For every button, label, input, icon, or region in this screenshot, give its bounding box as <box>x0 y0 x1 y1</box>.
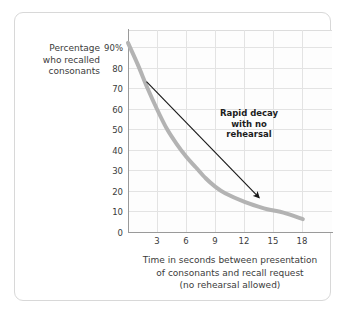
x-axis-line <box>128 232 333 233</box>
x-tick-label-6: 6 <box>175 236 197 246</box>
x-tick-label-3: 3 <box>146 236 168 246</box>
y-axis-caption-line-2: who recalled <box>24 55 100 67</box>
x-tick-label-9: 9 <box>204 236 226 246</box>
annotation-line-3: rehearsal <box>202 129 296 140</box>
y-tick-label-60: 60 <box>93 105 123 115</box>
gridline-v-6 <box>186 30 187 232</box>
y-tick-label-0: 0 <box>93 228 123 238</box>
y-tick-label-40: 40 <box>93 146 123 156</box>
y-axis-line <box>128 29 129 233</box>
y-tick-label-10: 10 <box>93 207 123 217</box>
x-tick-label-12: 12 <box>233 236 255 246</box>
gridline-v-3 <box>157 30 158 232</box>
annotation-label: Rapid decay with no rehearsal <box>202 108 296 140</box>
y-axis-caption-line-3: consonants <box>24 66 100 78</box>
y-tick-label-20: 20 <box>93 187 123 197</box>
annotation-line-2: with no <box>202 119 296 130</box>
gridline-v-18 <box>302 30 303 232</box>
annotation-line-1: Rapid decay <box>202 108 296 119</box>
y-tick-label-50: 50 <box>93 125 123 135</box>
x-tick-label-18: 18 <box>291 236 313 246</box>
x-tick-label-15: 15 <box>262 236 284 246</box>
x-axis-caption-line-3: (no rehearsal allowed) <box>110 279 350 292</box>
y-tick-label-70: 70 <box>93 84 123 94</box>
y-tick-label-80: 80 <box>93 64 123 74</box>
y-tick-label-90: 90% <box>89 43 123 53</box>
x-axis-caption-line-1: Time in seconds between presentation <box>110 254 350 267</box>
x-axis-caption: Time in seconds between presentation of … <box>110 254 350 292</box>
y-tick-label-30: 30 <box>93 166 123 176</box>
chart-figure: Percentage who recalled consonants 90% 8… <box>0 0 351 317</box>
x-axis-caption-line-2: of consonants and recall request <box>110 267 350 280</box>
